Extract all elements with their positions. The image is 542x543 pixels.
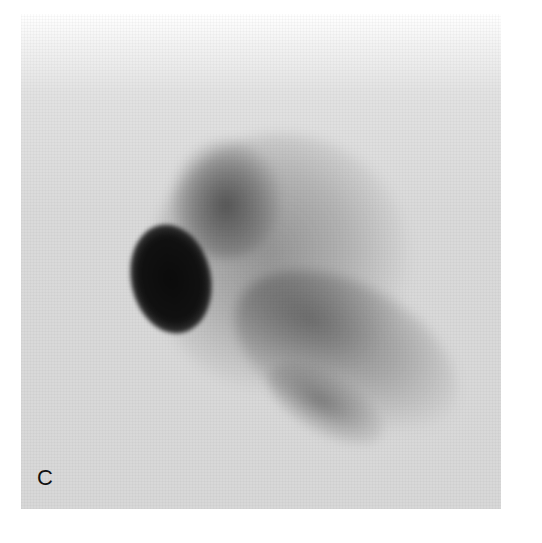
panel-label: C	[37, 467, 53, 489]
scintigraphy-image-panel: C	[21, 14, 501, 509]
